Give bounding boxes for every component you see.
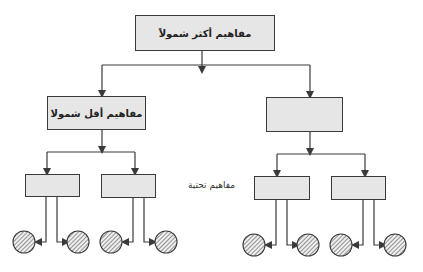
- mid-concept-label-left: مفاهيم أقل شمولا: [50, 108, 142, 119]
- top-concept-box: مفاهيم أكثر شمولاً: [135, 15, 275, 51]
- sub-concepts-label: مفاهيم تحتية: [188, 180, 235, 190]
- sub-concept-box: [101, 174, 156, 198]
- sub-concept-box: [25, 174, 80, 197]
- sub-concept-box: [254, 176, 310, 200]
- leaf-node: [13, 231, 35, 253]
- leaf-node: [330, 234, 352, 256]
- sub-concept-box: [331, 176, 386, 200]
- leaf-node: [67, 231, 89, 253]
- mid-concept-box-right: [266, 97, 343, 132]
- leaf-node: [243, 234, 265, 256]
- mid-concept-box-left: مفاهيم أقل شمولا: [47, 96, 146, 130]
- leaf-node: [384, 234, 406, 256]
- leaf-node: [155, 231, 177, 253]
- top-concept-label: مفاهيم أكثر شمولاً: [159, 28, 252, 39]
- leaf-node: [100, 231, 122, 253]
- leaf-node: [297, 234, 319, 256]
